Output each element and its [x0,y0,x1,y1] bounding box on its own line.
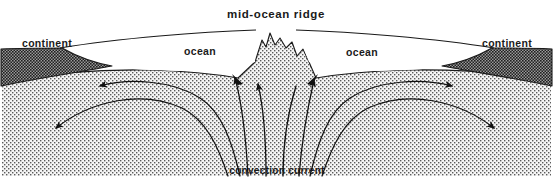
label-ocean-right: ocean [346,46,378,58]
seafloor-spreading-diagram: mid-ocean ridge continent continent ocea… [0,0,553,193]
label-ocean-left: ocean [184,45,216,57]
label-continent-left: continent [22,37,72,49]
label-continent-right: continent [482,37,532,49]
title-mid-ocean-ridge: mid-ocean ridge [227,8,325,20]
label-convection-current: convection current [229,165,325,176]
diagram-canvas: mid-ocean ridge continent continent ocea… [0,0,553,193]
